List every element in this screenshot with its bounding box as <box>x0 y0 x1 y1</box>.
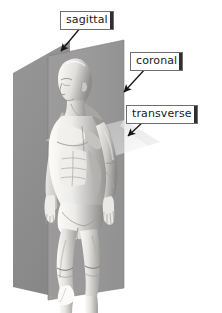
anatomical-planes-diagram: sagittal coronal transverse <box>0 0 222 313</box>
label-sagittal: sagittal <box>60 11 114 30</box>
label-transverse: transverse <box>126 105 198 124</box>
label-coronal: coronal <box>130 52 183 71</box>
coronal-arrow <box>124 68 146 92</box>
sagittal-arrow <box>61 27 81 51</box>
diagram-canvas <box>0 0 222 313</box>
